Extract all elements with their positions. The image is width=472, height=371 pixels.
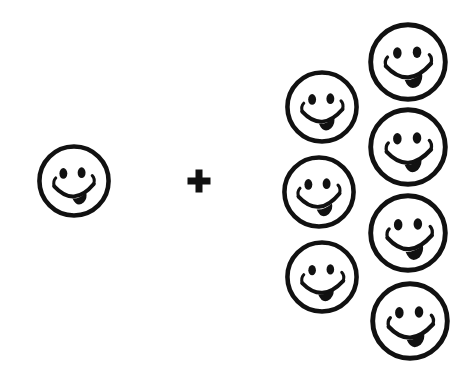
face-outline <box>39 146 108 215</box>
right-eye <box>327 264 335 274</box>
smiley-face <box>284 239 360 315</box>
left-eye <box>308 265 316 275</box>
right-eye <box>326 93 334 104</box>
smiley-face <box>36 143 112 219</box>
right-eye <box>413 132 422 143</box>
right-addend-group: 7 <box>270 0 472 371</box>
face-outline <box>373 284 448 359</box>
right-eye <box>414 218 423 229</box>
smiley-face <box>281 154 357 230</box>
face-outline <box>284 157 353 226</box>
left-addend-group: 1 <box>0 0 160 371</box>
smiley-face <box>367 106 449 188</box>
face-outline <box>371 110 446 185</box>
smiley-face <box>369 280 451 362</box>
left-eye <box>308 94 316 105</box>
face-outline <box>287 72 356 141</box>
plus-vertical-bar <box>196 170 203 193</box>
left-eye <box>393 133 402 144</box>
face-outline <box>371 196 446 271</box>
left-eye <box>59 168 67 179</box>
right-eye <box>78 167 86 178</box>
left-eye <box>394 219 403 230</box>
left-eye <box>304 179 312 190</box>
face-outline <box>371 25 446 100</box>
smiley-face <box>284 69 360 145</box>
left-eye <box>393 47 402 58</box>
face-outline <box>287 242 356 311</box>
plus-sign-icon <box>184 166 214 196</box>
right-eye <box>413 46 422 57</box>
right-eye <box>415 306 424 317</box>
smiley-face <box>367 192 449 274</box>
illustration-canvas: 1 + 7 <box>0 0 472 371</box>
smiley-face <box>367 21 449 103</box>
left-eye <box>395 307 404 318</box>
right-eye <box>323 178 331 189</box>
